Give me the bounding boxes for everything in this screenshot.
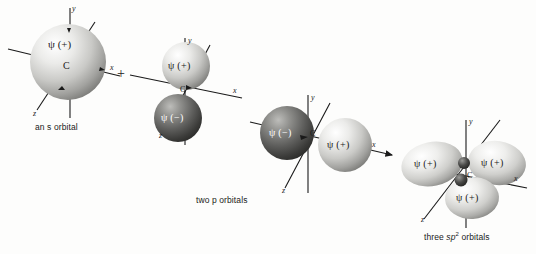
p-vertical-axis-label-z: z: [159, 132, 162, 140]
sp2-orbitals-caption: three sp2 orbitals: [424, 231, 490, 241]
sp2-wave-label-lower-center: ψ (+): [456, 193, 479, 203]
sp2-caption-sp: sp: [446, 232, 455, 242]
p-orbitals-caption: two p orbitals: [196, 196, 247, 205]
sp2-caption-prefix: three: [424, 232, 446, 242]
p-vertical-wave-label-positive: ψ (+): [168, 61, 191, 71]
p-horizontal-atom-label: C: [310, 130, 315, 138]
p-orbital-vertical-group: [130, 38, 242, 145]
p-vertical-wave-label-negative: ψ (−): [161, 113, 184, 123]
sp2-wave-label-upper-right: ψ (+): [481, 158, 504, 168]
s-orbital-atom-label: C: [63, 61, 70, 71]
sp2-axis-label-y: y: [469, 118, 473, 126]
p-horizontal-axis-label-y: y: [311, 94, 315, 102]
p-orbital-horizontal-group: [250, 95, 392, 193]
figure-graphics: [0, 0, 536, 254]
p-horizontal-axis-label-x: x: [372, 141, 376, 149]
s-orbital-axis-label-x: x: [110, 64, 114, 72]
p-horizontal-wave-label-negative: ψ (−): [269, 128, 292, 138]
p-vertical-atom-label: C: [180, 86, 185, 94]
sp2-nucleus-upper: [458, 157, 470, 169]
sp2-nucleus-lower: [455, 174, 468, 187]
sp2-axis-label-z: z: [421, 216, 424, 224]
sp2-atom-label: C: [467, 172, 472, 180]
sp2-axis-label-x: x: [514, 175, 518, 183]
sp2-wave-label-left: ψ (+): [414, 159, 437, 169]
p-horizontal-axis-label-z: z: [282, 187, 285, 195]
sp2-orbitals-group: [397, 120, 529, 228]
p-vertical-axis-label-x: x: [233, 87, 237, 95]
s-orbital-axis-label-y: y: [72, 5, 76, 13]
sp2-caption-suffix: orbitals: [459, 232, 490, 242]
s-orbital-wave-label: ψ (+): [48, 39, 71, 50]
plus-operator: +: [117, 67, 125, 81]
orbital-hybridization-figure: ψ (+) C y x z an s orbital + ψ (+) ψ (−)…: [0, 0, 536, 254]
p-orbitals-caption-text: two p orbitals: [196, 195, 247, 205]
s-orbital-axis-label-z: z: [33, 110, 36, 118]
p-horizontal-wave-label-positive: ψ (+): [327, 140, 350, 150]
p-vertical-axis-label-y: y: [188, 37, 192, 45]
s-orbital-caption: an s orbital: [35, 123, 78, 132]
s-orbital-caption-text: an s orbital: [35, 122, 78, 132]
